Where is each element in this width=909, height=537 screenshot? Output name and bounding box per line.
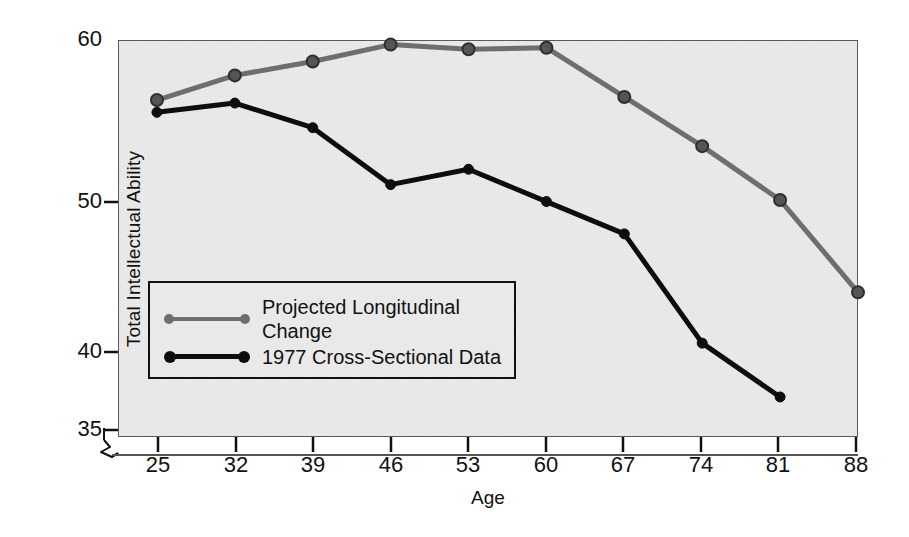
data-point — [696, 140, 708, 152]
data-point — [852, 286, 864, 298]
chart-overlay — [0, 0, 909, 537]
data-point — [540, 42, 552, 54]
legend-item-cross-sectional: 1977 Cross-Sectional Data — [164, 345, 501, 369]
data-point — [229, 69, 241, 81]
data-point — [619, 229, 629, 239]
data-point — [463, 43, 475, 55]
data-point — [152, 107, 162, 117]
data-point — [464, 164, 474, 174]
data-point — [541, 197, 551, 207]
legend-label-cross-sectional: 1977 Cross-Sectional Data — [262, 345, 501, 369]
data-point — [308, 123, 318, 133]
data-point — [618, 91, 630, 103]
data-point — [230, 98, 240, 108]
data-point — [385, 39, 397, 51]
x-axis-ticks — [158, 437, 856, 452]
data-point — [307, 56, 319, 68]
y-axis-ticks — [104, 202, 118, 440]
data-point — [386, 180, 396, 190]
data-point — [774, 194, 786, 206]
chart-figure: Total Intellectual Ability Age 60 50 40 … — [0, 0, 909, 537]
legend: Projected Longitudinal Change 1977 Cross… — [148, 281, 516, 379]
legend-label-projected: Projected Longitudinal Change — [262, 295, 460, 343]
data-point — [151, 94, 163, 106]
legend-swatch-projected-icon — [164, 310, 250, 328]
legend-swatch-cross-sectional-icon — [164, 348, 250, 366]
series-line — [157, 45, 858, 293]
data-point — [697, 338, 707, 348]
data-point — [775, 392, 785, 402]
legend-item-projected: Projected Longitudinal Change — [164, 295, 460, 343]
series-projected — [151, 39, 864, 299]
